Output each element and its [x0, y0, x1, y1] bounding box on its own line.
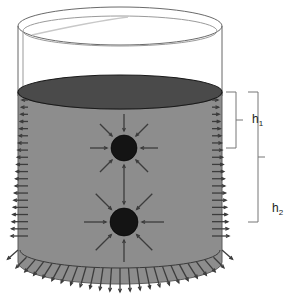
label-h1: h1	[252, 112, 264, 128]
diagram-canvas: h1 h2	[0, 0, 288, 303]
pressure-arrow	[222, 250, 233, 259]
lower-sphere	[110, 208, 138, 236]
hydrostatic-pressure-diagram: h1 h2	[0, 0, 288, 303]
upper-sphere	[111, 135, 137, 161]
pressure-arrow	[7, 250, 18, 259]
label-h2: h2	[272, 201, 284, 217]
rim-highlight	[32, 17, 128, 35]
fluid-body	[18, 92, 222, 284]
dimension-bracket-h1	[226, 92, 243, 148]
fluid-surface-ellipse	[18, 75, 222, 109]
